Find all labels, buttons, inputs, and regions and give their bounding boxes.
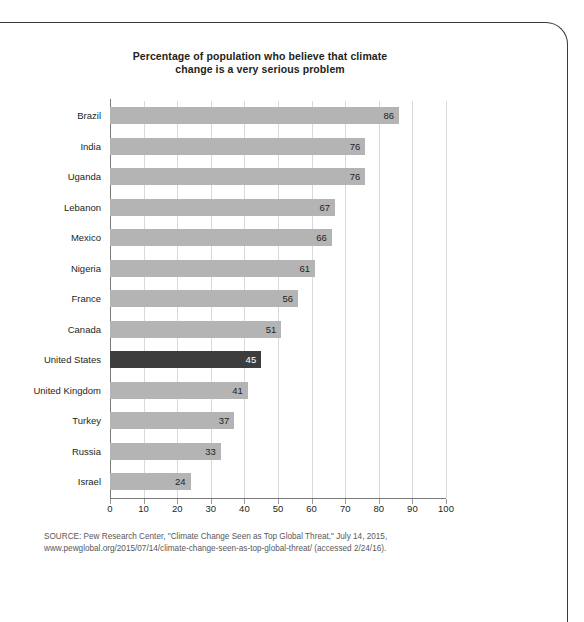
bar-value-label: 51 xyxy=(266,321,277,338)
category-label: Russia xyxy=(72,443,101,460)
bar-value-label: 56 xyxy=(283,290,294,307)
bar: 67 xyxy=(110,199,335,216)
chart-title-line-1: Percentage of population who believe tha… xyxy=(100,50,420,63)
source-note-line-1: SOURCE: Pew Research Center, "Climate Ch… xyxy=(44,531,514,543)
plot-area: Brazil86India76Uganda76Lebanon67Mexico66… xyxy=(110,101,446,498)
bar-value-label: 76 xyxy=(350,168,361,185)
bar-row: Brazil86 xyxy=(110,101,446,132)
bar-row: Israel24 xyxy=(110,467,446,498)
category-label: Israel xyxy=(78,473,101,490)
bar-row: United States45 xyxy=(110,345,446,376)
bar-value-label: 41 xyxy=(232,382,243,399)
bar: 76 xyxy=(110,138,365,155)
bar-row: France56 xyxy=(110,284,446,315)
bar-value-label: 61 xyxy=(299,260,310,277)
bar-value-label: 66 xyxy=(316,229,327,246)
bar-row: Turkey37 xyxy=(110,406,446,437)
bar-value-label: 33 xyxy=(205,443,216,460)
category-label: Nigeria xyxy=(71,260,101,277)
bar: 51 xyxy=(110,321,281,338)
bar-value-label: 24 xyxy=(175,473,186,490)
category-label: Mexico xyxy=(71,229,101,246)
category-label: Canada xyxy=(68,321,101,338)
category-label: Turkey xyxy=(72,412,101,429)
bar: 66 xyxy=(110,229,332,246)
bar: 24 xyxy=(110,473,191,490)
bar-row: Lebanon67 xyxy=(110,193,446,224)
category-label: France xyxy=(71,290,101,307)
bar: 33 xyxy=(110,443,221,460)
category-label: United Kingdom xyxy=(33,382,101,399)
bar-value-label: 67 xyxy=(320,199,331,216)
bar: 37 xyxy=(110,412,234,429)
bar: 45 xyxy=(110,351,261,368)
bar: 41 xyxy=(110,382,248,399)
source-note: SOURCE: Pew Research Center, "Climate Ch… xyxy=(44,531,514,555)
x-axis-tick-label: 100 xyxy=(426,503,466,514)
bar-value-label: 45 xyxy=(246,351,257,368)
category-label: United States xyxy=(44,351,101,368)
bar-row: India76 xyxy=(110,132,446,163)
figure-card: Percentage of population who believe tha… xyxy=(0,22,568,622)
bar: 86 xyxy=(110,107,399,124)
bar-row: Nigeria61 xyxy=(110,254,446,285)
category-label: Lebanon xyxy=(64,199,101,216)
bar-row: Mexico66 xyxy=(110,223,446,254)
bar-row: Uganda76 xyxy=(110,162,446,193)
category-label: Uganda xyxy=(68,168,101,185)
bar: 76 xyxy=(110,168,365,185)
bar-value-label: 37 xyxy=(219,412,230,429)
bar-value-label: 76 xyxy=(350,138,361,155)
chart-title-line-2: change is a very serious problem xyxy=(100,63,420,76)
category-label: India xyxy=(80,138,101,155)
bar: 56 xyxy=(110,290,298,307)
bar: 61 xyxy=(110,260,315,277)
gridline xyxy=(446,101,447,498)
chart-title: Percentage of population who believe tha… xyxy=(100,50,420,76)
category-label: Brazil xyxy=(77,107,101,124)
bar-row: Canada51 xyxy=(110,315,446,346)
bar-row: Russia33 xyxy=(110,437,446,468)
bar-value-label: 86 xyxy=(383,107,394,124)
source-note-line-2: www.pewglobal.org/2015/07/14/climate-cha… xyxy=(44,543,514,555)
bar-row: United Kingdom41 xyxy=(110,376,446,407)
